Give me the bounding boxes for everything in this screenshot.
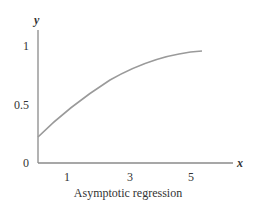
y-tick-label: 0.5	[14, 98, 29, 112]
x-tick-label: 1	[64, 170, 70, 184]
y-tick-label: 1	[23, 39, 29, 53]
chart-caption: Asymptotic regression	[74, 186, 182, 200]
x-axis-label: x	[236, 156, 243, 170]
chart: y x 1 0.5 0 1 3 5 Asymptotic regression	[0, 0, 253, 213]
x-tick-label: 5	[188, 170, 194, 184]
y-axis-label: y	[32, 13, 40, 27]
x-tick-label: 3	[127, 170, 133, 184]
y-tick-label: 0	[23, 156, 29, 170]
asymptotic-curve	[38, 51, 202, 137]
